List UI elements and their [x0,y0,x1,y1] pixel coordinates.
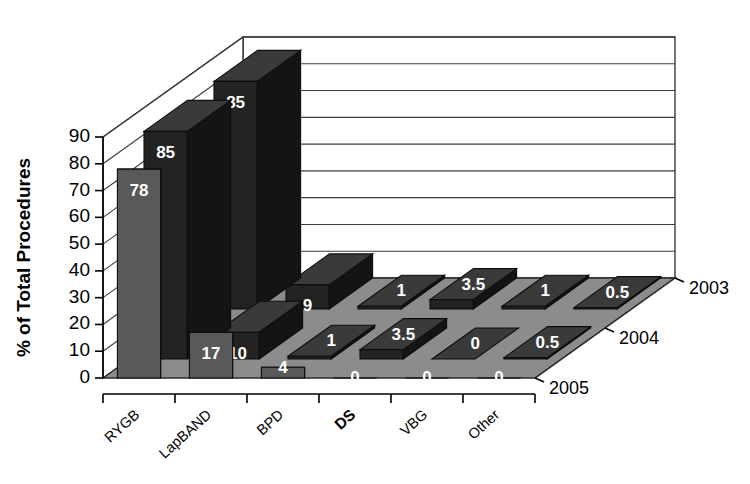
bar-front-face [502,306,545,309]
y-axis-tick-label: 50 [69,232,90,253]
y-axis-tick-label: 20 [69,312,90,333]
bar-value-label: 3.5 [461,275,485,294]
bar-value-label: 0.5 [605,283,629,302]
y-axis-tick-label: 30 [69,286,90,307]
y-axis-tick-label: 90 [69,125,90,146]
bar-value-label: 1 [541,281,550,300]
y-axis-tick-label: 10 [69,339,90,360]
x-axis-category-label-rygb: RYGB [101,406,142,445]
y-axis-title-group: % of Total Procedures [13,158,34,357]
y-axis-tick-label: 70 [69,179,90,200]
x-axis-category-label-lapband: LapBAND [156,406,215,461]
bar-value-label: 78 [130,181,149,200]
y-axis-tick-label: 80 [69,152,90,173]
back-wall [243,37,675,278]
bar-front-face [504,358,547,359]
chart-container: 0.513.519850.503.51108500041778 01020304… [0,0,750,484]
depth-axis-tick [605,328,614,332]
bar-front-face [360,350,403,359]
y-axis-title: % of Total Procedures [13,158,34,357]
bar-value-label: 0 [471,334,480,353]
bar-value-label: 3.5 [391,325,415,344]
x-axis-category-label-vbg: VBG [397,406,430,438]
bar-value-label: 9 [303,296,312,315]
bar-rygb-2005: 78 [117,169,160,378]
bar-value-label: 0 [422,368,431,387]
x-axis-category-label-ds: DS [331,406,358,433]
bar-front-face [288,356,331,359]
bar-value-label: 0 [350,368,359,387]
bar-front-face [574,308,617,309]
depth-axis-tick [535,378,544,382]
bar-value-label: 0 [494,368,503,387]
bar-front-face [117,169,160,378]
bar-front-face [430,300,473,309]
series-label-2005: 2005 [549,378,589,398]
x-axis-tick-labels: RYGBLapBANDBPDDSVBGOther [101,406,502,462]
three-d-bar-chart: 0.513.519850.503.51108500041778 01020304… [0,0,750,484]
y-axis-tick-label: 60 [69,205,90,226]
bar-value-label: 85 [156,143,175,162]
y-axis-tick-label: 0 [79,366,90,387]
depth-axis-tick [675,278,684,282]
bar-value-label: 4 [278,358,288,377]
bar-value-label: 0.5 [535,333,559,352]
x-axis-category-label-other: Other [465,406,503,442]
bar-value-label: 17 [202,344,221,363]
bar-lapband-2005: 17 [189,332,232,378]
y-axis-tick-label: 40 [69,259,90,280]
y-axis-tick-labels: 0102030405060708090 [69,125,90,387]
bar-front-face [358,306,401,309]
series-label-2003: 2003 [689,278,729,298]
bar-value-label: 1 [397,281,406,300]
x-axis-category-label-bpd: BPD [254,406,287,438]
series-label-2004: 2004 [619,328,659,348]
bar-side-face [187,100,230,359]
bar-value-label: 1 [327,331,336,350]
bar-side-face [257,50,300,309]
